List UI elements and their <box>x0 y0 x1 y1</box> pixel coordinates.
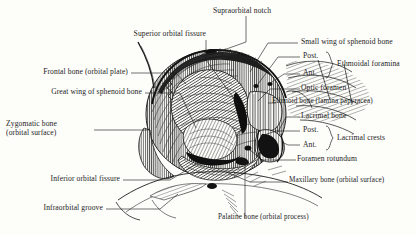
label-foramen-rotundum: Foramen rotundum <box>297 154 357 163</box>
label-zygomatic-bone-line2: (orbital surface) <box>6 128 56 137</box>
label-infraorbital-groove: Infraorbital groove <box>0 203 103 212</box>
label-supraorbital-notch: Supraorbital notch <box>213 6 271 15</box>
label-ethmoidal-foramina: Ethmoidal foramina <box>337 59 400 68</box>
label-lacrimal-crests: Lacrimal crests <box>337 133 385 142</box>
label-lacrimal-bone: Lacrimal bone <box>301 111 346 120</box>
label-great-wing-sphenoid: Great wing of sphenoid bone <box>0 87 142 96</box>
label-ethmoid-bone: Ethmoid bone (lamina papyracea) <box>272 97 373 106</box>
posterior-ethmoidal-foramen <box>253 84 258 88</box>
label-superior-orbital-fissure: Superior orbital fissure <box>0 29 206 38</box>
foramen-rotundum <box>245 145 252 150</box>
label-frontal-bone: Frontal bone (orbital plate) <box>0 67 128 76</box>
label-lacrimal-ant: Ant. <box>303 140 317 149</box>
anterior-ethmoidal-foramen <box>267 82 272 86</box>
label-inferior-orbital-fissure: Inferior orbital fissure <box>0 174 120 183</box>
label-lacrimal-post: Post. <box>303 125 318 134</box>
label-optic-foramen: Optic foramen <box>301 83 346 92</box>
label-maxillary-bone: Maxillary bone (orbital surface) <box>289 176 384 185</box>
label-ethmoidal-post: Post. <box>303 51 318 60</box>
label-palatine-bone: Palatine bone (orbital process) <box>218 213 309 222</box>
label-zygomatic-bone-line1: Zygomatic bone <box>6 119 57 128</box>
label-small-wing-sphenoid: Small wing of sphenoid bone <box>301 37 393 46</box>
label-ethmoidal-ant: Ant. <box>303 68 317 77</box>
infraorbital-foramen <box>207 183 217 189</box>
